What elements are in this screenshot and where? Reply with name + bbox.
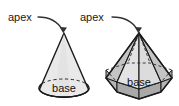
cone-apex-annotation: apex — [8, 11, 67, 34]
cone-apex-leader-line — [38, 17, 63, 30]
pyramid-apex-leader-line — [112, 17, 138, 30]
pyramid-apex-arrowhead — [134, 27, 142, 34]
cone-base-label: base — [52, 82, 76, 94]
cone-group: base — [39, 33, 89, 97]
pyramid-group: base — [106, 33, 172, 99]
pyramid-base-label: base — [127, 76, 151, 88]
cone-apex-label: apex — [8, 11, 32, 23]
pyramid-apex-label: apex — [80, 11, 104, 23]
geometry-figure: base apex — [0, 0, 179, 106]
cone-apex-arrowhead — [59, 27, 67, 34]
figure-canvas: base apex — [0, 0, 179, 106]
pyramid-apex-annotation: apex — [80, 11, 142, 34]
